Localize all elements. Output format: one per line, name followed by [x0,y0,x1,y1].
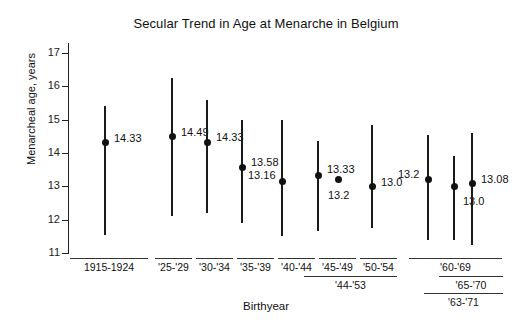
error-bar [427,135,429,240]
data-point-label: 13.2 [328,189,349,201]
y-tick-label-16: 16 [40,79,60,91]
x-group-rule [304,276,397,277]
x-group-rule [424,293,503,294]
data-point-label: 13.2 [398,168,419,180]
y-tick-11 [62,253,68,254]
data-point-marker [451,183,458,190]
y-tick-17 [62,53,68,54]
x-group-rule [237,258,274,259]
error-bar [171,78,173,216]
y-tick-12 [62,220,68,221]
data-point-label: 13.33 [327,163,355,175]
x-group-label: '60-'69 [409,261,502,273]
data-point-marker [279,178,286,185]
x-group-label: '25-'29 [155,261,192,273]
y-tick-16 [62,86,68,87]
y-tick-13 [62,186,68,187]
data-point-label: 14.33 [216,131,244,143]
error-bar [317,141,319,231]
chart-title: Secular Trend in Age at Menarche in Belg… [0,16,532,31]
x-group-rule [278,258,315,259]
chart-figure: Secular Trend in Age at Menarche in Belg… [0,0,532,328]
data-point-label: 14.33 [114,132,142,144]
data-point-label: 13.08 [481,173,509,185]
x-group-rule [360,258,397,259]
data-point-marker [102,139,109,146]
x-group-label: 1915-1924 [70,261,148,273]
data-point-marker [315,172,322,179]
x-group-rule [319,258,356,259]
data-point-marker [169,133,176,140]
data-point-marker [335,176,342,183]
x-axis-title: Birthyear [0,300,532,312]
data-point-marker [239,164,246,171]
y-tick-label-13: 13 [40,179,60,191]
data-point-label: 13.58 [251,156,279,168]
y-tick-label-15: 15 [40,113,60,125]
x-group-rule [70,258,148,259]
x-group-rule [439,276,503,277]
error-bar [241,120,243,223]
data-point-marker [204,139,211,146]
error-bar [104,106,106,234]
error-bar [471,133,473,245]
y-tick-label-11: 11 [40,246,60,258]
y-tick-label-17: 17 [40,46,60,58]
y-tick-label-14: 14 [40,146,60,158]
error-bar [371,125,373,228]
x-group-rule [409,258,502,259]
x-group-label: '35-'39 [237,261,274,273]
data-point-label: 13.0 [463,195,484,207]
error-bar [453,156,455,239]
x-group-label: '65-'70 [439,279,503,291]
x-group-label: '50-'54 [360,261,397,273]
x-group-label: '40-'44 [278,261,315,273]
data-point-label: 13.16 [248,169,276,181]
error-bar [206,100,208,213]
x-group-rule [196,258,233,259]
y-tick-label-12: 12 [40,213,60,225]
x-group-label: '30-'34 [196,261,233,273]
y-axis-title: Menarcheal age, years [25,34,37,184]
x-group-label: '45-'49 [319,261,356,273]
data-point-label: 14.49 [181,126,209,138]
data-point-marker [369,183,376,190]
data-point-marker [469,180,476,187]
y-tick-15 [62,120,68,121]
y-axis-line [68,43,69,254]
y-tick-14 [62,153,68,154]
data-point-marker [425,176,432,183]
x-group-rule [155,258,192,259]
x-group-label: '44-'53 [304,279,397,291]
